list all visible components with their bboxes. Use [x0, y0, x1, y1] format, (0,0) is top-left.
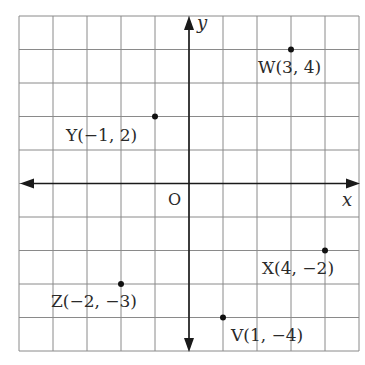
point-x [322, 248, 328, 254]
y-axis-arrow-up-icon [184, 16, 194, 30]
point-label-x: X(4, −2) [262, 258, 334, 278]
y-axis-label: y [196, 12, 208, 33]
point-label-w: W(3, 4) [258, 57, 321, 77]
x-axis-arrow-right-icon [346, 179, 360, 189]
point-y [152, 114, 158, 120]
x-axis-label: x [342, 189, 352, 210]
coordinate-plane: x y O W(3, 4)Y(−1, 2)X(4, −2)Z(−2, −3)V(… [0, 0, 365, 365]
point-label-y: Y(−1, 2) [65, 125, 137, 145]
origin-label: O [168, 190, 181, 209]
points: W(3, 4)Y(−1, 2)X(4, −2)Z(−2, −3)V(1, −4) [51, 47, 334, 345]
point-label-z: Z(−2, −3) [51, 291, 137, 311]
point-w [288, 47, 294, 53]
x-axis-arrow-left-icon [20, 179, 34, 189]
y-axis-arrow-down-icon [184, 338, 194, 352]
point-z [118, 281, 124, 287]
point-v [220, 315, 226, 321]
point-label-v: V(1, −4) [230, 325, 303, 345]
